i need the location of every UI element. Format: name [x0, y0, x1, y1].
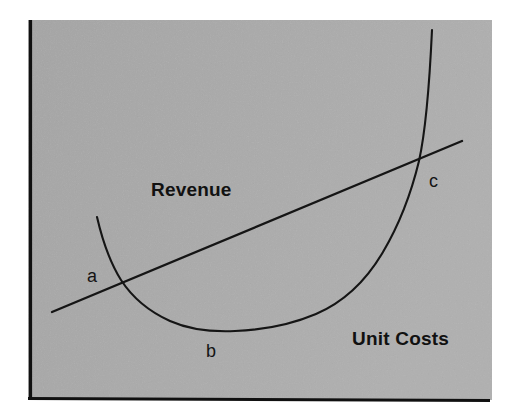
point-b-label: b [206, 341, 216, 361]
unit-costs-label: Unit Costs [352, 328, 449, 349]
figure-root: Revenue Unit Costs a b c [0, 0, 519, 419]
point-c-label: c [429, 171, 438, 191]
point-a-label: a [87, 266, 98, 286]
revenue-label: Revenue [151, 179, 232, 200]
unit-costs-revenue-diagram: Revenue Unit Costs a b c [0, 0, 519, 419]
